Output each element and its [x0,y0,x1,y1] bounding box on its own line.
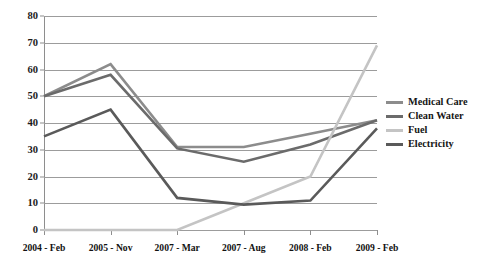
legend-swatch-icon [386,115,403,118]
y-tick-label: 60 [28,64,39,75]
x-tick-label: 2008 - Feb [289,243,332,253]
series-lines [44,16,377,230]
legend-swatch-icon [386,101,403,104]
x-tick-mark [310,230,311,235]
x-tick-label: 2009 - Feb [356,243,399,253]
x-tick-label: 2005 - Nov [89,243,133,253]
line-chart: 01020304050607080 2004 - Feb2005 - Nov20… [0,0,496,259]
legend-swatch-icon [386,129,403,132]
legend-item-label: Clean Water [408,111,464,121]
legend-item-medical-care[interactable]: Medical Care [386,95,494,109]
legend-item-fuel[interactable]: Fuel [386,123,494,137]
series-line-electricity [44,110,377,205]
plot-area: 01020304050607080 2004 - Feb2005 - Nov20… [44,16,377,230]
series-line-medical-care [44,64,377,147]
series-line-clean-water [44,75,377,162]
legend-item-label: Fuel [408,125,427,135]
y-tick-label: 10 [28,198,39,209]
legend-item-label: Electricity [408,139,454,149]
legend-item-label: Medical Care [408,97,468,107]
legend-swatch-icon [386,143,403,146]
legend-item-clean-water[interactable]: Clean Water [386,109,494,123]
x-tick-mark [377,230,378,235]
legend-item-electricity[interactable]: Electricity [386,137,494,151]
y-tick-label: 40 [28,118,39,129]
y-tick-label: 70 [28,38,39,49]
x-tick-mark [244,230,245,235]
y-tick-label: 80 [28,11,39,22]
y-tick-label: 30 [28,145,39,156]
chart-legend: Medical CareClean WaterFuelElectricity [386,95,494,151]
x-tick-label: 2007 - Mar [155,243,200,253]
y-tick-label: 0 [33,225,38,236]
x-tick-label: 2007 - Aug [222,243,266,253]
x-tick-label: 2004 - Feb [23,243,66,253]
y-tick-label: 50 [28,91,39,102]
y-tick-label: 20 [28,171,39,182]
